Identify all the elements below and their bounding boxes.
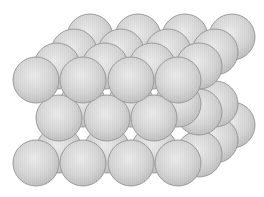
sphere bbox=[155, 140, 201, 186]
sphere-group bbox=[13, 14, 255, 186]
sphere bbox=[13, 57, 59, 103]
sphere-lattice bbox=[0, 0, 264, 197]
sphere-packing-illustration bbox=[0, 0, 264, 197]
sphere bbox=[108, 140, 154, 186]
sphere bbox=[108, 57, 154, 103]
sphere bbox=[60, 140, 106, 186]
sphere bbox=[13, 140, 59, 186]
sphere bbox=[60, 57, 106, 103]
sphere bbox=[155, 57, 201, 103]
